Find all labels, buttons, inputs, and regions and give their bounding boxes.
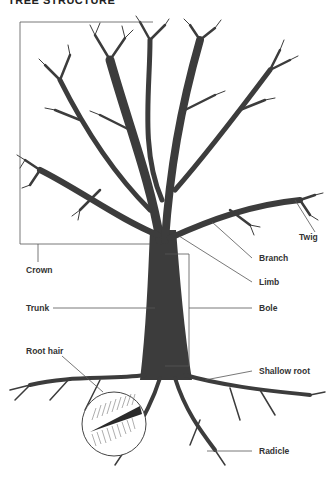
label-crown: Crown	[26, 265, 52, 275]
label-radicle: Radicle	[259, 446, 289, 456]
label-limb: Limb	[259, 277, 279, 287]
root-hair-magnifier	[82, 392, 146, 456]
label-branch: Branch	[259, 253, 288, 263]
label-root-hair: Root hair	[26, 346, 63, 356]
tree-illustration	[10, 16, 325, 465]
tree-diagram	[0, 0, 333, 479]
label-bole: Bole	[259, 303, 277, 313]
label-twig: Twig	[299, 232, 318, 242]
label-trunk: Trunk	[26, 303, 49, 313]
label-shallow-root: Shallow root	[259, 366, 310, 376]
